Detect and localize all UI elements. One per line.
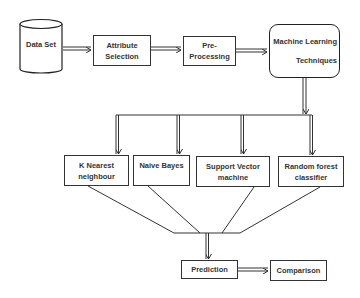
node-naive-bayes: Naive Bayes	[133, 155, 190, 186]
node-knn: K Nearest neighbour	[64, 155, 129, 186]
node-label-line1: Pre-	[202, 40, 217, 51]
node-label-line1: Naive Bayes	[139, 160, 183, 171]
node-label-line2: machine	[218, 172, 248, 183]
node-label-line1: Machine Learning	[273, 36, 339, 47]
node-label-line1: K Nearest	[79, 160, 114, 171]
node-svm: Support Vector machine	[196, 156, 270, 187]
node-ml-techniques: Machine Learning Techniques	[269, 24, 340, 78]
node-label-line1: Random forest	[285, 161, 338, 172]
node-comparison: Comparison	[270, 260, 327, 281]
node-label-line2: Processing	[189, 51, 229, 62]
node-label-line2: Techniques	[296, 55, 339, 66]
node-attribute-selection: Attribute Selection	[93, 35, 151, 66]
node-label: Comparison	[277, 265, 321, 276]
node-label: Prediction	[191, 264, 228, 275]
node-random-forest: Random forest classifier	[278, 156, 344, 187]
node-dataset-label: Data Set	[20, 40, 62, 49]
node-label-line1: Attribute	[106, 40, 137, 51]
node-label-line2: Selection	[105, 51, 138, 62]
node-label-line2: neighbour	[78, 171, 115, 182]
node-prediction: Prediction	[181, 260, 238, 279]
node-label-line1: Support Vector	[206, 161, 260, 172]
node-preprocessing: Pre- Processing	[183, 36, 236, 66]
node-label-line2: classifier	[295, 172, 328, 183]
